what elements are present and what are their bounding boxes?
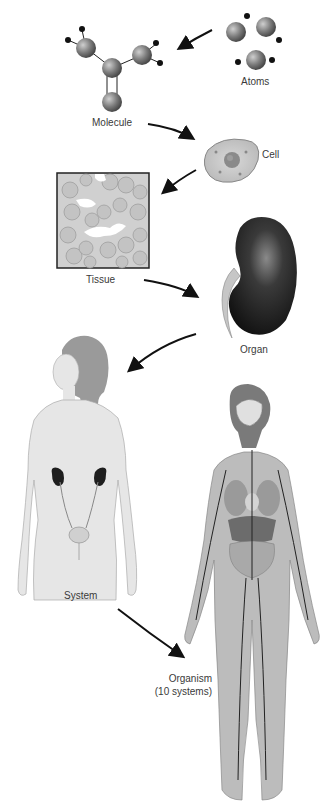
- label-organism-title: Organism: [150, 672, 212, 685]
- label-atoms: Atoms: [241, 75, 269, 88]
- label-cell: Cell: [262, 148, 279, 161]
- arrow-molecule-to-cell: [148, 124, 192, 138]
- label-molecule: Molecule: [92, 116, 132, 129]
- label-tissue: Tissue: [86, 273, 115, 286]
- system-figure: [18, 336, 137, 600]
- molecule-figure: [65, 26, 163, 112]
- cell-figure: [204, 139, 258, 182]
- arrow-atoms-to-molecule: [180, 30, 212, 48]
- label-system: System: [64, 589, 97, 602]
- tissue-figure: [57, 173, 149, 268]
- arrow-tissue-to-organ: [144, 280, 196, 296]
- arrow-system-to-organism: [118, 609, 182, 656]
- atoms-figure: [226, 13, 282, 70]
- arrow-organ-to-system: [130, 334, 196, 370]
- label-organ: Organ: [240, 343, 268, 356]
- organism-figure: [185, 384, 320, 800]
- label-organism-sublabel: (10 systems): [150, 685, 212, 698]
- organ-figure: [222, 217, 297, 338]
- arrow-cell-to-tissue: [164, 170, 196, 192]
- label-organism: Organism (10 systems): [150, 672, 212, 698]
